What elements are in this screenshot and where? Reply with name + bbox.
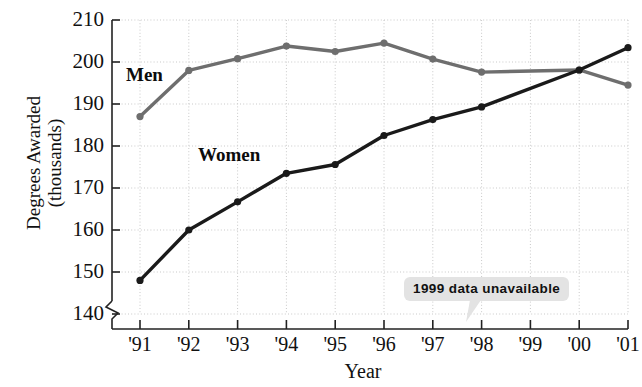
series-label-men: Men — [126, 64, 163, 86]
callout-1999-data-unavailable: 1999 data unavailable — [404, 277, 569, 301]
datapoint-women-95 — [332, 161, 339, 168]
datapoint-women-98 — [478, 103, 485, 110]
datapoint-men-98 — [478, 68, 485, 75]
datapoint-women-00 — [576, 66, 583, 73]
datapoint-men-94 — [283, 42, 290, 49]
plot-area — [0, 0, 642, 387]
datapoint-men-95 — [332, 48, 339, 55]
datapoint-men-91 — [136, 113, 143, 120]
datapoint-men-01 — [624, 82, 631, 89]
degrees-awarded-line-chart: Degrees Awarded (thousands) 140150160170… — [0, 0, 642, 387]
datapoint-women-96 — [380, 132, 387, 139]
datapoint-women-01 — [624, 44, 631, 51]
datapoint-women-97 — [429, 116, 436, 123]
gridlines — [112, 20, 628, 314]
datapoint-men-96 — [380, 40, 387, 47]
datapoint-men-92 — [185, 67, 192, 74]
datapoint-men-97 — [429, 55, 436, 62]
datapoint-women-92 — [185, 226, 192, 233]
datapoint-women-94 — [283, 170, 290, 177]
datapoint-women-91 — [136, 277, 143, 284]
series-label-women: Women — [198, 144, 260, 166]
y-axis-break-symbol — [106, 301, 118, 329]
callout-tail — [466, 300, 481, 322]
datapoint-women-93 — [234, 198, 241, 205]
datapoint-men-93 — [234, 55, 241, 62]
